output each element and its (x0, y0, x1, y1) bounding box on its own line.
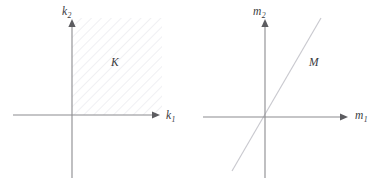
line-M-diagram: m2 m1 M (190, 0, 380, 188)
cone-K-diagram: k2 k1 K (0, 0, 190, 188)
m1-axis-arrow-icon (340, 113, 348, 120)
left-panel-canvas (0, 0, 190, 188)
m2-axis-label: m2 (253, 6, 266, 19)
k1-axis-label: k1 (166, 110, 175, 123)
right-panel-canvas (190, 0, 380, 188)
set-M-label: M (309, 57, 319, 69)
m2-axis-arrow-icon (261, 19, 268, 27)
m1-axis-label: m1 (355, 110, 368, 123)
line-M (232, 18, 321, 171)
k2-axis-label: k2 (62, 6, 71, 19)
set-K-label: K (111, 57, 119, 69)
math-figure: k2 k1 K m2 m1 M (0, 0, 380, 188)
